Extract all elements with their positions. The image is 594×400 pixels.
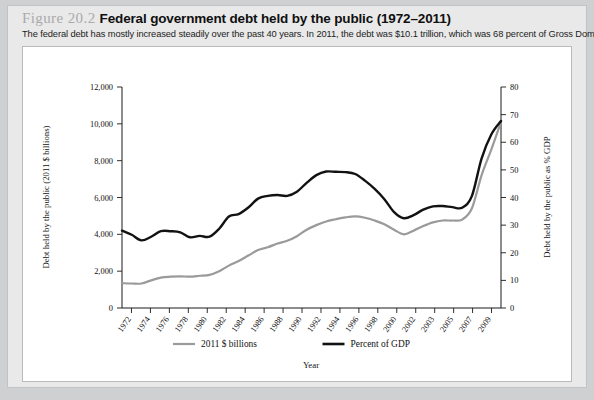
x-axis-tick-label: 1974 [135,314,152,334]
chart-panel: 02,0004,0006,0008,00010,00012,000 Debt h… [22,46,572,382]
y-axis-left-tick-label: 12,000 [90,83,113,92]
x-axis-tick-label: 2003 [419,315,436,334]
line-chart: 02,0004,0006,0008,00010,00012,000 Debt h… [23,47,569,379]
x-axis-tick-label: 1982 [211,315,228,334]
figure-title-line: Figure 20.2 Federal government debt held… [22,10,576,27]
x-axis-tick-label: 1972 [116,315,133,334]
y-axis-left-tick-label: 0 [109,304,113,313]
series-line-2 [122,121,501,240]
y-axis-right-tick-label: 50 [510,166,518,175]
x-axis-tick-label: 1990 [287,315,304,334]
figure-subtitle: The federal debt has mostly increased st… [22,29,576,39]
x-axis-tick-label: 1992 [306,315,323,334]
y-axis-right-tick-label: 30 [510,221,518,230]
y-axis-right-tick-label: 80 [510,83,518,92]
series-layer [122,121,501,284]
x-axis-tick-label: 2002 [400,315,417,334]
x-axis-tick-label: 1994 [325,314,342,334]
y-axis-left-title: Debt held by the public (2011 $ billions… [41,125,51,268]
y-axis-right-tick-label: 10 [510,276,518,285]
legend-label-1: 2011 $ billions [201,339,257,349]
y-axis-right-ticks: 01020304050607080 [501,83,518,313]
y-axis-left: 02,0004,0006,0008,00010,00012,000 Debt h… [41,83,122,313]
y-axis-left-tick-label: 4,000 [94,230,113,239]
y-axis-left-tick-label: 8,000 [94,157,113,166]
x-axis-tick-label: 1984 [230,314,247,334]
x-axis-tick-label: 1998 [362,315,379,334]
figure-card: Figure 20.2 Federal government debt held… [8,6,586,387]
figure-number: Figure 20.2 [22,10,96,26]
y-axis-left-tick-label: 2,000 [94,267,113,276]
x-axis-tick-label: 1976 [154,315,171,334]
y-axis-right-tick-label: 60 [510,138,518,147]
figure-title: Federal government debt held by the publ… [100,11,451,26]
x-axis-tick-label: 1978 [173,315,190,334]
y-axis-right: 01020304050607080 Debt held by the publi… [501,83,552,313]
x-axis-tick-label: 1980 [192,315,209,334]
y-axis-right-tick-label: 20 [510,249,518,258]
x-axis-tick-label: 1988 [268,315,285,334]
figure-header: Figure 20.2 Federal government debt held… [22,10,576,39]
x-axis-tick-label: 2009 [476,315,493,334]
x-axis-ticks: 1972197419761978198019821984198619881990… [116,308,493,334]
y-axis-left-tick-label: 6,000 [94,194,113,203]
x-axis-tick-label: 2005 [438,315,455,334]
x-axis-tick-label: 1996 [344,315,361,334]
y-axis-left-ticks: 02,0004,0006,0008,00010,00012,000 [90,83,122,313]
legend-label-2: Percent of GDP [351,339,410,349]
y-axis-right-tick-label: 40 [510,194,518,203]
y-axis-left-tick-label: 10,000 [90,120,113,129]
series-line-1 [122,122,501,284]
x-axis-tick-label: 2007 [457,315,474,334]
y-axis-right-tick-label: 70 [510,111,518,120]
y-axis-right-title: Debt held by the public as % GDP [542,136,552,258]
x-axis-title: Year [303,360,319,370]
y-axis-right-tick-label: 0 [510,304,514,313]
x-axis-tick-label: 1986 [249,315,266,334]
chart-legend: 2011 $ billionsPercent of GDP [173,339,410,349]
x-axis: 1972197419761978198019821984198619881990… [116,308,501,370]
x-axis-tick-label: 2000 [381,315,398,334]
